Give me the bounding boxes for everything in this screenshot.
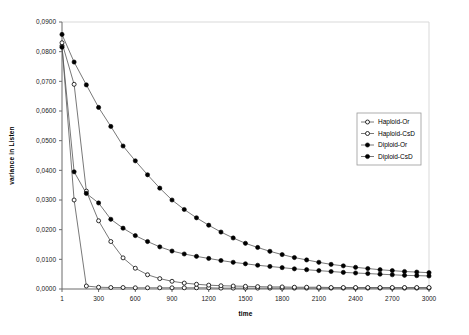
data-point-diploid-or bbox=[341, 270, 345, 274]
data-point-diploid-csd bbox=[243, 241, 247, 245]
variance-line-chart: 0,00000,01000,02000,03000,04000,05000,06… bbox=[0, 0, 469, 335]
y-tick-label: 0,0600 bbox=[36, 107, 56, 114]
y-tick-label: 0,0100 bbox=[36, 256, 56, 263]
data-point-haploid-csd bbox=[109, 240, 113, 244]
y-tick-label: 0,0200 bbox=[36, 226, 56, 233]
data-point-diploid-or bbox=[170, 249, 174, 253]
data-point-diploid-csd bbox=[72, 60, 76, 64]
data-point-diploid-csd bbox=[317, 260, 321, 264]
data-point-diploid-or bbox=[329, 269, 333, 273]
y-tick-label: 0,0700 bbox=[36, 78, 56, 85]
series-line-haploid-or bbox=[62, 46, 429, 288]
data-point-diploid-csd bbox=[231, 236, 235, 240]
data-point-diploid-or bbox=[390, 273, 394, 277]
data-point-haploid-or bbox=[158, 286, 162, 290]
x-tick-label: 2100 bbox=[312, 295, 327, 302]
data-point-diploid-csd bbox=[292, 255, 296, 259]
data-point-haploid-csd bbox=[403, 286, 407, 290]
data-point-haploid-csd bbox=[280, 285, 284, 289]
data-point-diploid-or bbox=[353, 271, 357, 275]
x-tick-label: 2700 bbox=[385, 295, 400, 302]
data-point-haploid-csd bbox=[427, 286, 431, 290]
data-point-diploid-or bbox=[60, 45, 64, 49]
data-point-haploid-csd bbox=[194, 282, 198, 286]
data-point-diploid-csd bbox=[329, 262, 333, 266]
data-point-haploid-csd bbox=[231, 284, 235, 288]
data-point-haploid-csd bbox=[182, 281, 186, 285]
data-point-diploid-or bbox=[96, 201, 100, 205]
legend-marker-haploid-or bbox=[366, 120, 370, 124]
data-point-diploid-csd bbox=[194, 216, 198, 220]
data-point-diploid-csd bbox=[121, 144, 125, 148]
data-point-diploid-csd bbox=[415, 270, 419, 274]
data-point-diploid-csd bbox=[427, 271, 431, 275]
data-point-haploid-csd bbox=[256, 285, 260, 289]
y-axis-title: variance in Listen bbox=[8, 126, 15, 185]
y-tick-label: 0,0900 bbox=[36, 18, 56, 25]
data-point-haploid-csd bbox=[146, 273, 150, 277]
data-point-diploid-csd bbox=[366, 266, 370, 270]
data-point-haploid-csd bbox=[292, 285, 296, 289]
data-point-diploid-or bbox=[219, 258, 223, 262]
y-tick-label: 0,0300 bbox=[36, 196, 56, 203]
data-point-diploid-or bbox=[182, 252, 186, 256]
y-tick-label: 0,0400 bbox=[36, 167, 56, 174]
data-point-diploid-csd bbox=[158, 186, 162, 190]
data-point-diploid-csd bbox=[133, 159, 137, 163]
y-tick-label: 0,0500 bbox=[36, 137, 56, 144]
data-point-haploid-csd bbox=[158, 277, 162, 281]
x-tick-label: 1800 bbox=[275, 295, 290, 302]
data-point-diploid-csd bbox=[170, 198, 174, 202]
legend-label-diploid-or: Diploid-Or bbox=[378, 141, 408, 149]
data-point-haploid-csd bbox=[219, 284, 223, 288]
data-point-diploid-csd bbox=[268, 249, 272, 253]
data-point-diploid-or bbox=[268, 264, 272, 268]
data-point-diploid-csd bbox=[378, 268, 382, 272]
data-point-diploid-csd bbox=[280, 252, 284, 256]
data-point-haploid-or bbox=[182, 286, 186, 290]
data-point-diploid-csd bbox=[219, 230, 223, 234]
legend-marker-haploid-csd bbox=[366, 132, 370, 136]
data-point-haploid-csd bbox=[415, 286, 419, 290]
data-point-diploid-or bbox=[207, 256, 211, 260]
x-tick-label: 300 bbox=[93, 295, 104, 302]
data-point-haploid-csd bbox=[329, 286, 333, 290]
data-point-haploid-csd bbox=[72, 82, 76, 86]
legend-label-diploid-csd: Diploid-CsD bbox=[378, 153, 413, 161]
x-tick-label: 1500 bbox=[238, 295, 253, 302]
data-point-haploid-csd bbox=[97, 219, 101, 223]
data-point-haploid-csd bbox=[305, 285, 309, 289]
data-point-haploid-csd bbox=[60, 41, 64, 45]
data-point-diploid-or bbox=[72, 170, 76, 174]
legend-marker-diploid-or bbox=[365, 143, 369, 147]
data-point-diploid-or bbox=[109, 217, 113, 221]
data-point-diploid-or bbox=[133, 234, 137, 238]
x-tick-label: 900 bbox=[167, 295, 178, 302]
data-point-diploid-or bbox=[378, 272, 382, 276]
data-point-diploid-csd bbox=[390, 269, 394, 273]
x-tick-label: 600 bbox=[130, 295, 141, 302]
data-point-haploid-or bbox=[97, 285, 101, 289]
data-point-haploid-csd bbox=[354, 286, 358, 290]
data-point-haploid-or bbox=[133, 286, 137, 290]
data-point-haploid-or bbox=[72, 198, 76, 202]
data-point-haploid-or bbox=[121, 286, 125, 290]
data-point-diploid-or bbox=[256, 263, 260, 267]
x-tick-label: 1 bbox=[60, 295, 64, 302]
y-tick-label: 0,0000 bbox=[36, 285, 56, 292]
data-point-haploid-csd bbox=[207, 283, 211, 287]
data-point-diploid-csd bbox=[109, 124, 113, 128]
data-point-diploid-csd bbox=[60, 32, 64, 36]
data-point-diploid-or bbox=[121, 226, 125, 230]
data-point-haploid-csd bbox=[133, 266, 137, 270]
data-point-diploid-csd bbox=[305, 258, 309, 262]
x-tick-label: 2400 bbox=[348, 295, 363, 302]
data-point-haploid-csd bbox=[341, 286, 345, 290]
data-point-haploid-csd bbox=[390, 286, 394, 290]
data-point-diploid-or bbox=[194, 254, 198, 258]
legend-marker-diploid-csd bbox=[365, 154, 369, 158]
data-point-diploid-csd bbox=[84, 83, 88, 87]
data-point-haploid-csd bbox=[366, 286, 370, 290]
data-point-diploid-csd bbox=[256, 245, 260, 249]
data-point-diploid-or bbox=[317, 269, 321, 273]
